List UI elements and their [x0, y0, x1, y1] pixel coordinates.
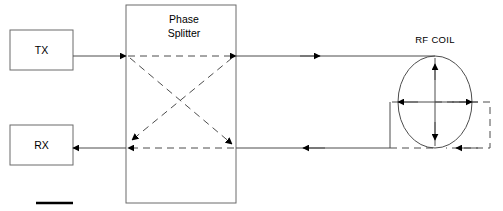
coil-return-path [236, 102, 390, 148]
phase-splitter-label-line1: Phase [169, 13, 199, 25]
block-diagram: TX RX Phase Splitter [0, 0, 503, 211]
phase-splitter-block: Phase Splitter [126, 5, 236, 203]
rx-block: RX [10, 125, 73, 165]
rx-block-label: RX [34, 139, 49, 151]
rf-coil: RF COIL [392, 34, 478, 148]
tx-block-label: TX [35, 44, 48, 56]
coil-return-line [236, 102, 390, 148]
phase-splitter-label-line2: Splitter [168, 27, 201, 39]
coil-right-dashed-loop [390, 102, 490, 148]
dashed-loop-line [435, 102, 490, 148]
tx-block: TX [10, 30, 73, 70]
diagram-canvas: TX RX Phase Splitter [0, 0, 503, 211]
rf-coil-label: RF COIL [415, 34, 455, 45]
